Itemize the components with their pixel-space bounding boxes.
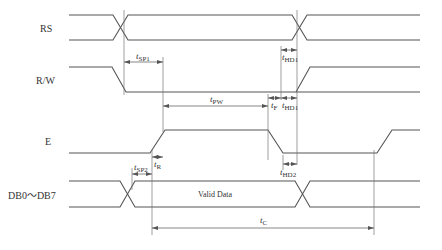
tf-label: tF bbox=[271, 100, 278, 112]
tpw-label: tPW bbox=[210, 94, 223, 106]
db-waveform bbox=[69, 181, 420, 207]
signal-label-db: DB0～DB7 bbox=[8, 190, 56, 201]
timing-diagram: RS R/W E DB0～DB7 Valid Data tSP1 tHD1 tP… bbox=[0, 0, 442, 250]
thd2-label: tHD2 bbox=[280, 167, 297, 179]
e-waveform bbox=[69, 130, 420, 153]
tsp1-label: tSP1 bbox=[136, 51, 150, 63]
valid-data-label: Valid Data bbox=[198, 190, 232, 199]
rw-waveform bbox=[69, 67, 420, 92]
signal-label-rs: RS bbox=[40, 23, 52, 34]
tc-label: tC bbox=[260, 215, 268, 227]
tsp2-label: tSP2 bbox=[134, 162, 148, 174]
guide-lines bbox=[124, 10, 374, 235]
tr-label: tR bbox=[154, 159, 162, 171]
rs-waveform bbox=[69, 15, 420, 40]
signal-label-e: E bbox=[45, 136, 51, 147]
signal-label-rw: R/W bbox=[36, 75, 55, 86]
thd1-upper-label: tHD1 bbox=[282, 52, 299, 64]
thd1-lower-label: tHD1 bbox=[282, 100, 299, 112]
